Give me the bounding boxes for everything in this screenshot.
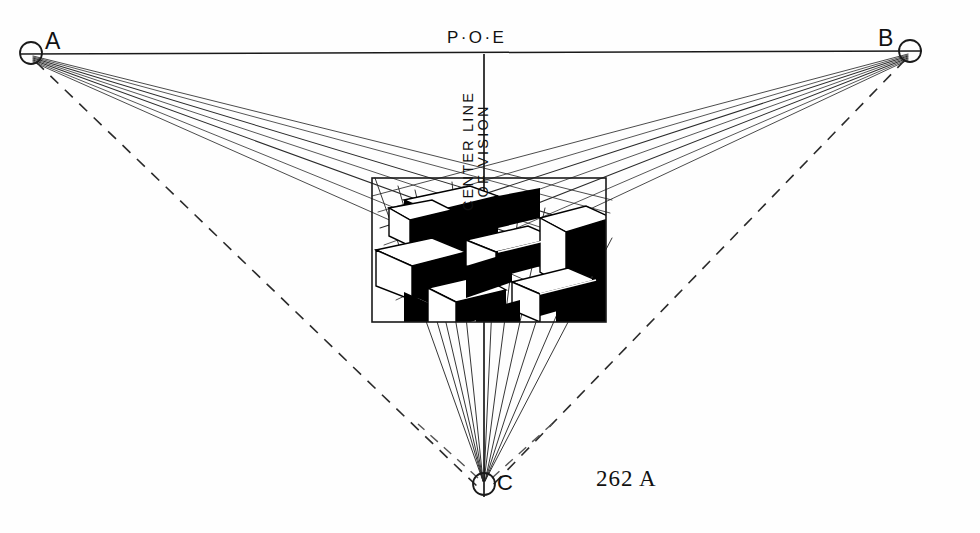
vanishing-point-b-label: B xyxy=(878,25,894,52)
point-of-eye-label: P·O·E xyxy=(447,28,506,48)
figure-caption: 262 A xyxy=(596,466,657,492)
vanishing-point-c-label: C xyxy=(497,470,513,496)
center-line-text-2: OF VISION xyxy=(476,91,491,211)
vanishing-point-a-label: A xyxy=(45,28,61,55)
shadow-wedge-upper-right xyxy=(498,188,540,228)
corner-mark-label: c xyxy=(438,300,445,314)
center-line-of-vision-label: CENTER LINE OF VISION xyxy=(461,91,491,211)
perspective-diagram xyxy=(0,0,980,533)
vp-a-circle xyxy=(20,42,42,64)
center-line-text-1: CENTER LINE xyxy=(461,91,476,211)
block-massing-study xyxy=(372,178,612,326)
horizon-line xyxy=(20,51,922,54)
block-shapes xyxy=(376,186,612,326)
figure-page: A B C P·O·E CENTER LINE OF VISION c 262 … xyxy=(0,0,980,533)
